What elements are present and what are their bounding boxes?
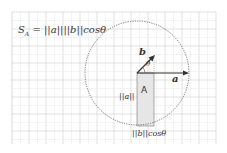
vector-b-label: b xyxy=(139,46,146,57)
angle-arc xyxy=(143,67,145,73)
diagram-canvas xyxy=(0,0,227,153)
area-rect xyxy=(137,73,154,126)
vector-a-label: a xyxy=(172,73,178,84)
angle-label: θ xyxy=(146,60,150,68)
side-a-label: ||a|| xyxy=(119,92,135,101)
area-label: A xyxy=(141,85,147,95)
area-formula: SA = ||a||||b||cosθ xyxy=(18,24,106,37)
side-b-label: ||b||cosθ xyxy=(132,129,166,138)
